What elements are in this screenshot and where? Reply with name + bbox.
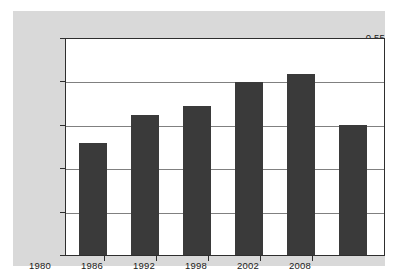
bar-1992[interactable] [183, 106, 211, 255]
bar-1998[interactable] [235, 82, 263, 255]
bar-1986[interactable] [131, 115, 159, 255]
x-axis-label-1998: 1998 [170, 261, 222, 271]
bar-2002[interactable] [287, 74, 315, 255]
bars-layer [66, 39, 384, 255]
bar-chart-figure: 0.55 0.53 0.51 0.49 0.47 0.45 [0, 0, 401, 278]
x-axis-label-1992: 1992 [118, 261, 170, 271]
bar-2008[interactable] [339, 125, 367, 255]
x-axis-label-1980: 1980 [14, 261, 66, 271]
chart-panel: 0.55 0.53 0.51 0.49 0.47 0.45 [13, 11, 385, 266]
bar-1980[interactable] [79, 143, 107, 255]
x-axis-label-2002: 2002 [222, 261, 274, 271]
x-axis-label-2008: 2008 [274, 261, 326, 271]
x-axis-label-1986: 1986 [66, 261, 118, 271]
